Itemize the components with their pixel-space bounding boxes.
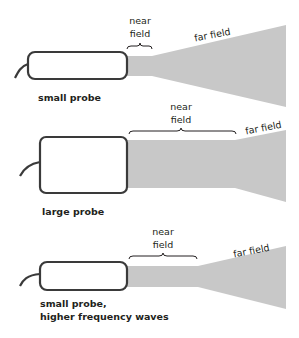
probe-label: higher frequency waves <box>40 311 169 322</box>
probe-label: small probe <box>38 92 101 103</box>
ultrasound-near-far-field-diagram: near field far field small probe near fi… <box>0 0 299 338</box>
probe-cable <box>15 64 28 78</box>
near-field-label: near <box>170 101 192 112</box>
near-field-label: field <box>153 239 174 250</box>
probe-body <box>40 137 127 193</box>
probe-body <box>28 52 127 79</box>
panel-small-probe: near field far field small probe <box>15 15 286 107</box>
near-field-brace <box>129 253 197 259</box>
probe-cable <box>20 162 40 176</box>
far-field-beam <box>235 130 286 202</box>
near-field-label: near <box>152 226 174 237</box>
panel-small-probe-high-frequency: near field far field small probe, higher… <box>20 226 286 322</box>
near-field-brace <box>127 43 152 49</box>
near-field-label: field <box>171 114 192 125</box>
near-field-label: field <box>130 28 151 39</box>
near-field-label: near <box>129 15 151 26</box>
probe-body <box>40 262 127 290</box>
near-field-beam <box>126 140 235 188</box>
near-field-beam <box>126 266 198 287</box>
panel-large-probe: near field far field large probe <box>20 101 286 217</box>
near-field-brace <box>129 128 236 134</box>
probe-cable <box>20 274 40 286</box>
probe-label: small probe, <box>40 298 107 309</box>
near-field-beam <box>126 56 152 76</box>
probe-label: large probe <box>42 206 104 217</box>
